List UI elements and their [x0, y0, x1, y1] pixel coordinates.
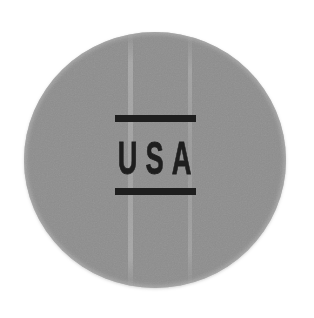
- usa-label: USA: [110, 141, 200, 175]
- photo-background: USA: [0, 0, 314, 318]
- bottom-bar: [115, 188, 196, 195]
- usa-badge: USA: [24, 32, 286, 288]
- badge-content: USA: [24, 32, 286, 283]
- top-bar: [115, 115, 196, 122]
